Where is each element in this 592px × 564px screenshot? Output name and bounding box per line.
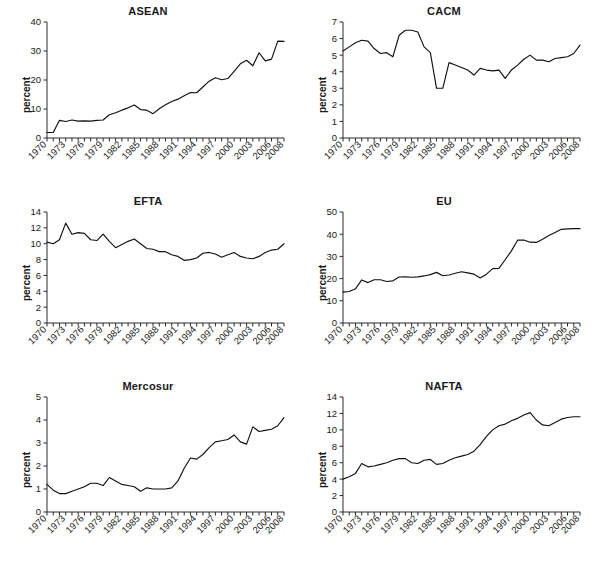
svg-text:1982: 1982 (101, 139, 124, 162)
svg-text:3: 3 (332, 83, 337, 94)
plot-nafta: 0246810121419701973197619791982198519881… (296, 375, 592, 564)
svg-text:1979: 1979 (82, 139, 105, 162)
svg-text:2003: 2003 (232, 139, 255, 162)
svg-text:1970: 1970 (322, 513, 345, 536)
data-line (47, 418, 284, 494)
svg-text:1: 1 (36, 483, 41, 494)
svg-text:1997: 1997 (490, 139, 513, 162)
svg-text:1991: 1991 (157, 324, 180, 347)
svg-text:1973: 1973 (340, 513, 363, 536)
svg-text:2003: 2003 (528, 139, 551, 162)
svg-text:1997: 1997 (194, 324, 217, 347)
svg-text:1991: 1991 (157, 139, 180, 162)
plot-mercosur: 0123451970197319761979198219851988199119… (0, 375, 296, 564)
svg-text:1991: 1991 (453, 513, 476, 536)
svg-text:2000: 2000 (509, 513, 532, 536)
svg-text:1976: 1976 (63, 324, 86, 347)
svg-text:4: 4 (332, 474, 337, 485)
svg-text:1994: 1994 (175, 139, 198, 162)
svg-text:1979: 1979 (82, 324, 105, 347)
svg-text:1994: 1994 (175, 513, 198, 536)
svg-text:1979: 1979 (378, 139, 401, 162)
data-line (343, 229, 580, 292)
panel-nafta: NAFTA percent 02468101214197019731976197… (296, 375, 592, 564)
svg-text:4: 4 (36, 414, 41, 425)
panel-mercosur: Mercosur percent 01234519701973197619791… (0, 375, 296, 564)
svg-text:1970: 1970 (26, 139, 49, 162)
plot-efta: 0246810121419701973197619791982198519881… (0, 190, 296, 375)
svg-text:1985: 1985 (415, 513, 438, 536)
svg-text:1973: 1973 (340, 324, 363, 347)
svg-text:1997: 1997 (194, 139, 217, 162)
svg-text:7: 7 (332, 16, 337, 27)
svg-text:1988: 1988 (138, 513, 161, 536)
svg-text:1988: 1988 (434, 513, 457, 536)
svg-text:20: 20 (326, 273, 337, 284)
svg-text:50: 50 (326, 206, 337, 217)
svg-text:1988: 1988 (138, 324, 161, 347)
svg-text:10: 10 (30, 103, 41, 114)
svg-text:12: 12 (30, 222, 41, 233)
svg-text:1982: 1982 (397, 139, 420, 162)
svg-text:1976: 1976 (63, 513, 86, 536)
svg-text:2000: 2000 (509, 139, 532, 162)
svg-text:1976: 1976 (359, 513, 382, 536)
svg-text:5: 5 (332, 50, 337, 61)
svg-text:1985: 1985 (119, 139, 142, 162)
svg-text:1997: 1997 (490, 324, 513, 347)
svg-text:1: 1 (332, 116, 337, 127)
svg-text:1976: 1976 (359, 139, 382, 162)
svg-text:1994: 1994 (471, 513, 494, 536)
svg-text:1997: 1997 (194, 513, 217, 536)
svg-text:1982: 1982 (397, 513, 420, 536)
data-line (47, 223, 284, 260)
svg-text:1976: 1976 (63, 139, 86, 162)
svg-text:30: 30 (30, 45, 41, 56)
svg-text:5: 5 (36, 391, 41, 402)
svg-text:2: 2 (332, 99, 337, 110)
svg-text:1985: 1985 (119, 513, 142, 536)
svg-text:1979: 1979 (378, 324, 401, 347)
svg-text:1985: 1985 (119, 324, 142, 347)
plot-asean: 0102030401970197319761979198219851988199… (0, 0, 296, 190)
svg-text:20: 20 (30, 74, 41, 85)
svg-text:6: 6 (332, 457, 337, 468)
svg-text:30: 30 (326, 251, 337, 262)
svg-text:1973: 1973 (340, 139, 363, 162)
panel-asean: ASEAN percent 01020304019701973197619791… (0, 0, 296, 190)
svg-text:3: 3 (36, 437, 41, 448)
svg-text:1970: 1970 (322, 139, 345, 162)
plot-cacm: 0123456719701973197619791982198519881991… (296, 0, 592, 190)
svg-text:12: 12 (326, 408, 337, 419)
svg-text:1985: 1985 (415, 139, 438, 162)
svg-text:8: 8 (332, 441, 337, 452)
svg-text:8: 8 (36, 254, 41, 265)
svg-text:10: 10 (326, 424, 337, 435)
svg-text:1994: 1994 (471, 139, 494, 162)
svg-text:1973: 1973 (44, 324, 67, 347)
svg-text:1988: 1988 (434, 324, 457, 347)
svg-text:2: 2 (36, 460, 41, 471)
svg-text:14: 14 (326, 391, 337, 402)
plot-eu: 0102030405019701973197619791982198519881… (296, 190, 592, 375)
panel-cacm: CACM percent 012345671970197319761979198… (296, 0, 592, 190)
chart-grid: ASEAN percent 01020304019701973197619791… (0, 0, 592, 564)
svg-text:10: 10 (326, 295, 337, 306)
svg-text:1991: 1991 (453, 324, 476, 347)
svg-text:10: 10 (30, 238, 41, 249)
svg-text:1991: 1991 (453, 139, 476, 162)
svg-text:1973: 1973 (44, 139, 67, 162)
svg-text:1988: 1988 (138, 139, 161, 162)
svg-text:1970: 1970 (26, 324, 49, 347)
svg-text:14: 14 (30, 206, 41, 217)
panel-eu: EU percent 01020304050197019731976197919… (296, 190, 592, 375)
svg-text:2: 2 (36, 302, 41, 313)
svg-text:1970: 1970 (322, 324, 345, 347)
svg-text:4: 4 (332, 66, 337, 77)
svg-text:2000: 2000 (509, 324, 532, 347)
panel-efta: EFTA percent 024681012141970197319761979… (0, 190, 296, 375)
svg-text:4: 4 (36, 286, 41, 297)
svg-text:1994: 1994 (471, 324, 494, 347)
svg-text:2003: 2003 (232, 513, 255, 536)
data-line (343, 30, 580, 88)
